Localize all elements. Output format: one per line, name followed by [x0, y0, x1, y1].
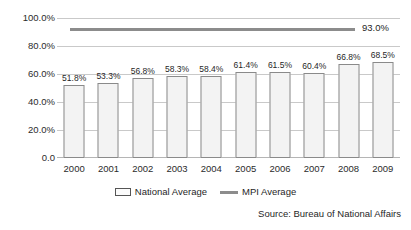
- source-note: Source: Bureau of National Affairs: [258, 208, 401, 219]
- bar-value-label-2003: 58.3%: [165, 65, 189, 74]
- bar-value-label-2004: 58.4%: [199, 65, 223, 74]
- bar-value-label-2005: 61.4%: [234, 61, 258, 70]
- bar-rect-2009[interactable]: [372, 62, 393, 158]
- bar-2001[interactable]: 53.3%: [91, 18, 125, 158]
- legend-item-national-average[interactable]: National Average: [115, 187, 207, 197]
- bar-rect-2004[interactable]: [201, 76, 222, 158]
- bar-rect-2008[interactable]: [338, 64, 359, 158]
- bar-value-label-2002: 56.8%: [131, 67, 155, 76]
- legend-bar-swatch-icon: [115, 188, 131, 196]
- y-axis-label-100: 100.0%: [3, 13, 55, 23]
- mpi-average-line: [70, 28, 355, 31]
- bar-2004[interactable]: 58.4%: [194, 18, 228, 158]
- bar-rect-2001[interactable]: [98, 83, 119, 158]
- chart-legend: National Average MPI Average: [0, 187, 411, 197]
- legend-label-mpi-average: MPI Average: [242, 187, 296, 197]
- bar-2009[interactable]: 68.5%: [366, 18, 400, 158]
- x-axis-labels: 2000200120022003200420052006200720082009: [57, 163, 400, 177]
- bar-value-label-2001: 53.3%: [96, 72, 120, 81]
- legend-item-mpi-average[interactable]: MPI Average: [220, 187, 296, 197]
- mpi-average-value-label: 93.0%: [362, 23, 389, 33]
- x-axis-label-2004: 2004: [194, 163, 228, 174]
- y-axis-label-40: 40.0%: [3, 97, 55, 107]
- bar-rect-2006[interactable]: [269, 72, 290, 158]
- bar-2006[interactable]: 61.5%: [263, 18, 297, 158]
- x-axis-label-2002: 2002: [126, 163, 160, 174]
- bar-value-label-2006: 61.5%: [268, 61, 292, 70]
- y-axis-label-20: 20.0%: [3, 125, 55, 135]
- bar-rect-2003[interactable]: [167, 76, 188, 158]
- bar-2005[interactable]: 61.4%: [229, 18, 263, 158]
- bar-rect-2002[interactable]: [132, 78, 153, 158]
- chart-container: 100.0% 80.0% 60.0% 40.0% 20.0% 0.0 51.8%…: [0, 0, 411, 230]
- bar-rect-2007[interactable]: [304, 73, 325, 158]
- x-axis-label-2001: 2001: [91, 163, 125, 174]
- legend-line-swatch-icon: [220, 191, 238, 194]
- bar-value-label-2009: 68.5%: [371, 51, 395, 60]
- bar-value-label-2007: 60.4%: [302, 62, 326, 71]
- y-axis-label-0: 0.0: [3, 153, 55, 163]
- y-axis-label-80: 80.0%: [3, 41, 55, 51]
- legend-label-national-average: National Average: [135, 187, 207, 197]
- x-axis-label-2009: 2009: [366, 163, 400, 174]
- bar-series-national-average: 51.8%53.3%56.8%58.3%58.4%61.4%61.5%60.4%…: [57, 18, 400, 158]
- bar-2008[interactable]: 66.8%: [331, 18, 365, 158]
- bar-2002[interactable]: 56.8%: [126, 18, 160, 158]
- x-axis-label-2008: 2008: [331, 163, 365, 174]
- bar-2007[interactable]: 60.4%: [297, 18, 331, 158]
- bar-value-label-2000: 51.8%: [62, 74, 86, 83]
- bar-2003[interactable]: 58.3%: [160, 18, 194, 158]
- y-axis-label-60: 60.0%: [3, 69, 55, 79]
- x-axis-label-2005: 2005: [229, 163, 263, 174]
- bar-value-label-2008: 66.8%: [336, 53, 360, 62]
- bar-rect-2000[interactable]: [64, 85, 85, 158]
- x-axis-label-2006: 2006: [263, 163, 297, 174]
- x-axis-label-2003: 2003: [160, 163, 194, 174]
- x-axis-label-2007: 2007: [297, 163, 331, 174]
- bar-rect-2005[interactable]: [235, 72, 256, 158]
- x-axis-label-2000: 2000: [57, 163, 91, 174]
- bar-2000[interactable]: 51.8%: [57, 18, 91, 158]
